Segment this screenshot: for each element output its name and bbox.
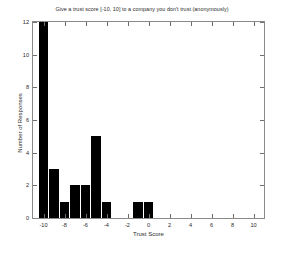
y-tick-label: 6: [26, 117, 29, 123]
y-tick-label: 2: [26, 182, 29, 188]
x-tick: [212, 214, 213, 218]
bar: [49, 169, 59, 218]
x-tick-top: [191, 22, 192, 26]
y-axis-label: Number of Responses: [17, 63, 23, 183]
x-tick-label: 2: [168, 222, 171, 228]
y-tick-label: 12: [23, 19, 29, 25]
x-tick-top: [212, 22, 213, 26]
x-tick-label: 10: [250, 222, 256, 228]
x-tick: [191, 214, 192, 218]
y-tick-label: 0: [26, 215, 29, 221]
x-tick: [107, 214, 108, 218]
bars-layer: [33, 22, 264, 218]
x-tick-label: -8: [62, 222, 67, 228]
y-tick: [33, 153, 37, 154]
y-tick-label: 4: [26, 150, 29, 156]
x-axis-label: Trust Score: [32, 231, 265, 237]
y-tick-right: [260, 218, 264, 219]
x-tick: [44, 214, 45, 218]
y-tick-right: [260, 22, 264, 23]
x-tick-label: -4: [104, 222, 109, 228]
x-tick-top: [65, 22, 66, 26]
x-tick-label: 6: [210, 222, 213, 228]
x-tick: [65, 214, 66, 218]
figure-canvas: Give a trust score [-10, 10] to a compan…: [0, 0, 284, 257]
x-tick-label: 0: [147, 222, 150, 228]
x-tick-top: [128, 22, 129, 26]
y-tick-right: [260, 120, 264, 121]
x-tick-label: 4: [189, 222, 192, 228]
y-tick-label: 8: [26, 84, 29, 90]
x-tick-label: -6: [83, 222, 88, 228]
bar: [39, 22, 49, 218]
plot-area: [32, 21, 265, 219]
x-tick-top: [233, 22, 234, 26]
bar: [70, 185, 80, 218]
y-tick: [33, 120, 37, 121]
x-tick-label: 8: [231, 222, 234, 228]
bar: [91, 136, 101, 218]
x-tick: [86, 214, 87, 218]
y-tick-right: [260, 185, 264, 186]
x-tick-top: [86, 22, 87, 26]
x-tick-label: -10: [39, 222, 47, 228]
y-tick-right: [260, 55, 264, 56]
y-tick-label: 10: [23, 52, 29, 58]
x-tick-top: [44, 22, 45, 26]
x-tick: [128, 214, 129, 218]
y-tick-right: [260, 153, 264, 154]
y-tick: [33, 87, 37, 88]
x-tick-top: [149, 22, 150, 26]
y-tick-right: [260, 87, 264, 88]
x-tick-top: [170, 22, 171, 26]
x-tick-top: [254, 22, 255, 26]
x-tick: [254, 214, 255, 218]
chart-title: Give a trust score [-10, 10] to a compan…: [0, 6, 284, 12]
x-tick: [149, 214, 150, 218]
y-tick: [33, 185, 37, 186]
x-tick: [233, 214, 234, 218]
y-tick: [33, 218, 37, 219]
x-tick-label: -2: [125, 222, 130, 228]
bar: [133, 202, 143, 218]
y-tick: [33, 55, 37, 56]
y-tick: [33, 22, 37, 23]
x-tick-top: [107, 22, 108, 26]
x-tick: [170, 214, 171, 218]
